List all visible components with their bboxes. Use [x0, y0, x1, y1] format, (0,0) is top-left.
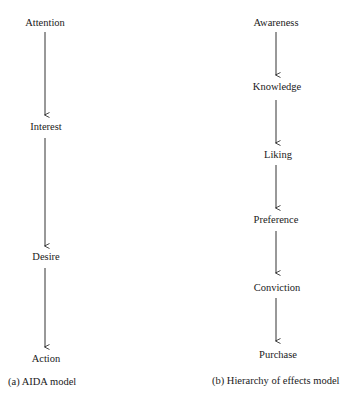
node-desire: Desire	[32, 251, 59, 262]
node-purchase: Purchase	[259, 349, 297, 360]
node-conviction: Conviction	[254, 282, 301, 293]
node-knowledge: Knowledge	[253, 81, 301, 92]
node-action: Action	[32, 353, 61, 364]
node-awareness: Awareness	[253, 17, 298, 28]
caption-hierarchy: (b) Hierarchy of effects model	[212, 375, 340, 386]
node-interest: Interest	[30, 121, 62, 132]
node-liking: Liking	[264, 149, 292, 160]
caption-aida: (a) AIDA model	[8, 376, 76, 387]
arrows-layer	[0, 0, 362, 401]
node-preference: Preference	[254, 214, 299, 225]
node-attention: Attention	[25, 17, 65, 28]
